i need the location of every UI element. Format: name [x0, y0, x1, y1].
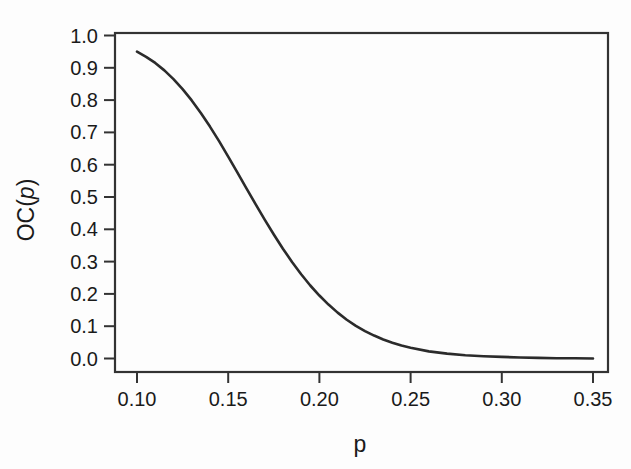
y-axis-title-suffix: )	[13, 179, 39, 187]
y-tick-label: 0.4	[70, 218, 98, 240]
y-tick-label: 0.3	[70, 251, 98, 273]
x-axis-title: p	[354, 431, 367, 457]
chart-page: 0.00.10.20.30.40.50.60.70.80.91.0 0.100.…	[0, 0, 631, 469]
x-tick-label: 0.25	[391, 388, 430, 410]
x-tick-label: 0.10	[118, 388, 157, 410]
oc-curve-chart: 0.00.10.20.30.40.50.60.70.80.91.0 0.100.…	[0, 0, 631, 469]
y-tick-label: 0.6	[70, 154, 98, 176]
y-axis-tick-labels: 0.00.10.20.30.40.50.60.70.80.91.0	[70, 25, 98, 370]
y-tick-label: 0.2	[70, 283, 98, 305]
y-tick-label: 0.8	[70, 89, 98, 111]
y-axis-title-prefix: OC(	[13, 199, 39, 242]
y-axis-title: OC(p)	[13, 179, 39, 242]
x-tick-label: 0.20	[300, 388, 339, 410]
y-tick-label: 1.0	[70, 25, 98, 47]
y-tick-label: 0.5	[70, 186, 98, 208]
y-axis-title-var: p	[13, 186, 39, 200]
x-tick-label: 0.35	[574, 388, 613, 410]
y-tick-label: 0.7	[70, 121, 98, 143]
x-tick-label: 0.30	[482, 388, 521, 410]
y-tick-label: 0.0	[70, 348, 98, 370]
y-tick-label: 0.1	[70, 315, 98, 337]
y-tick-label: 0.9	[70, 57, 98, 79]
x-tick-label: 0.15	[209, 388, 248, 410]
